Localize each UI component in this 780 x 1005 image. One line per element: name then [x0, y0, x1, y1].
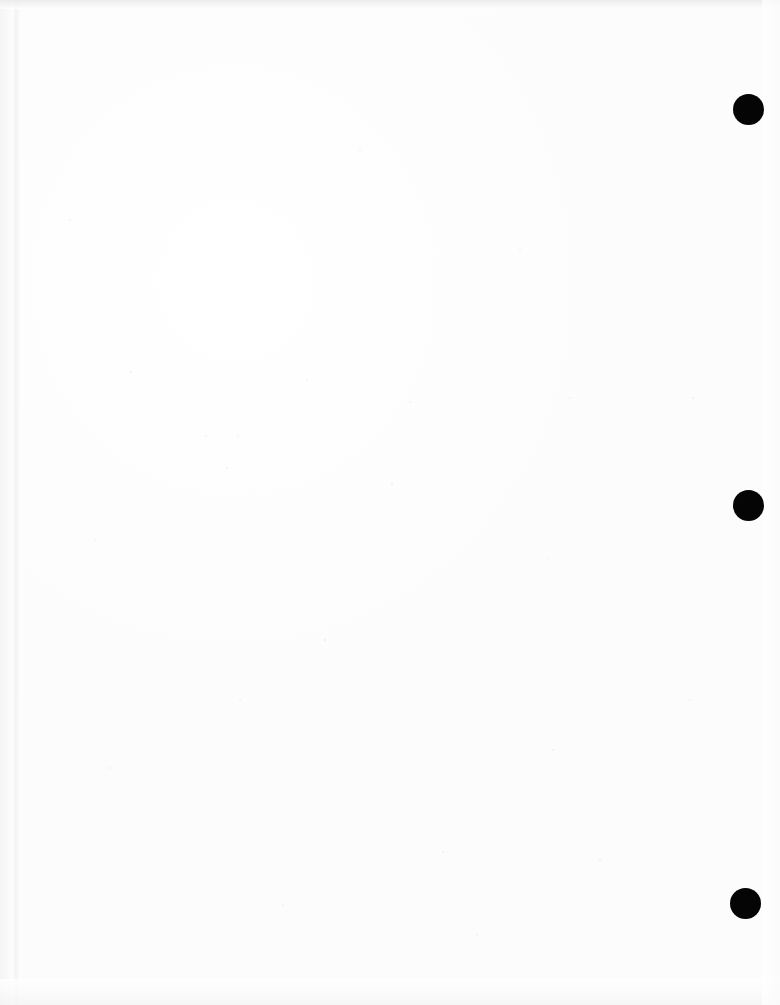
scan-artifact-top-edge	[0, 0, 780, 9]
registration-mark-top	[733, 94, 764, 125]
paper-background	[0, 0, 780, 1005]
scan-artifact-right-edge	[762, 0, 780, 1005]
scan-artifact-bottom-edge	[0, 979, 780, 1005]
scan-seam-left-edge	[0, 0, 22, 1005]
registration-mark-bottom	[730, 888, 761, 919]
registration-mark-middle	[733, 490, 764, 521]
scanned-page	[0, 0, 780, 1005]
